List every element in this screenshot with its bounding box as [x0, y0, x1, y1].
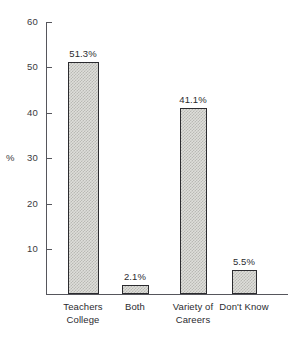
y-tick-mark	[46, 67, 52, 68]
bar	[68, 62, 99, 295]
y-tick-mark	[46, 158, 52, 159]
bar	[232, 270, 257, 295]
bar-value-label: 41.1%	[163, 94, 223, 105]
y-tick-mark	[46, 204, 52, 205]
bar	[180, 108, 207, 295]
y-tick-label: 30	[10, 152, 38, 163]
bar-value-label: 5.5%	[214, 256, 274, 267]
y-tick-label: 60	[10, 16, 38, 27]
y-tick-label: 50	[10, 61, 38, 72]
y-tick-mark	[46, 113, 52, 114]
y-tick-label: 40	[10, 107, 38, 118]
y-tick-label: 10	[10, 243, 38, 254]
bar-chart: % 605040302010 51.3%2.1%41.1%5.5% Teache…	[0, 0, 299, 341]
bar-value-label: 2.1%	[105, 271, 165, 282]
y-tick-mark	[46, 249, 52, 250]
y-tick-label: 20	[10, 198, 38, 209]
x-axis-label: Don't Know	[199, 301, 289, 314]
bar	[122, 285, 149, 295]
y-tick-mark	[46, 22, 52, 23]
bar-value-label: 51.3%	[53, 48, 113, 59]
